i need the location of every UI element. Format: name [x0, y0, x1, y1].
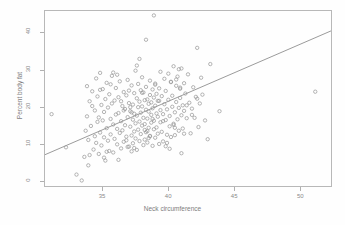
data-point: [197, 125, 200, 128]
data-point: [94, 77, 97, 80]
data-point: [105, 126, 108, 129]
data-point: [93, 135, 96, 138]
data-point: [178, 96, 181, 99]
data-point: [151, 144, 154, 147]
data-point: [190, 107, 193, 110]
data-point: [112, 71, 115, 74]
data-point: [102, 110, 105, 113]
data-point: [165, 141, 168, 144]
data-point: [125, 135, 128, 138]
data-point: [138, 100, 141, 103]
data-point: [104, 97, 107, 100]
data-point: [136, 128, 139, 131]
y-tick-label: 20: [25, 98, 31, 114]
data-point: [175, 78, 178, 81]
data-point: [130, 150, 133, 153]
data-point: [91, 90, 94, 93]
data-point: [101, 119, 104, 122]
data-point: [133, 130, 136, 133]
data-point: [97, 152, 100, 155]
data-point: [115, 127, 118, 130]
data-point: [181, 127, 184, 130]
data-point: [156, 115, 159, 118]
data-point: [163, 77, 166, 80]
data-point: [138, 139, 141, 142]
data-point: [140, 76, 143, 79]
data-point: [135, 64, 138, 67]
y-tick-mark: [40, 32, 44, 33]
data-point: [140, 105, 143, 108]
data-point: [155, 92, 158, 95]
data-point: [157, 142, 160, 145]
data-point: [159, 108, 162, 111]
data-point: [109, 83, 112, 86]
data-point: [171, 105, 174, 108]
data-point: [85, 84, 88, 87]
data-point: [189, 132, 192, 135]
data-point: [91, 104, 94, 107]
y-tick-mark: [40, 70, 44, 71]
data-point: [80, 179, 83, 182]
data-point: [147, 110, 150, 113]
y-tick-label: 30: [25, 61, 31, 77]
data-point: [161, 112, 164, 115]
data-point: [139, 111, 142, 114]
y-tick-label: 0: [25, 172, 31, 188]
data-point: [155, 112, 158, 115]
y-tick-label: 40: [25, 23, 31, 39]
data-point: [218, 110, 221, 113]
data-points-layer: [45, 11, 331, 186]
data-point: [160, 130, 163, 133]
data-point: [180, 114, 183, 117]
x-tick-label: 40: [158, 193, 178, 199]
data-point: [105, 81, 108, 84]
data-point: [314, 90, 317, 93]
data-point: [89, 124, 92, 127]
data-point: [171, 94, 174, 97]
data-point: [98, 71, 101, 74]
data-point: [206, 138, 209, 141]
data-point: [133, 91, 136, 94]
data-point: [96, 95, 99, 98]
data-point: [115, 73, 118, 76]
data-point: [175, 100, 178, 103]
x-tick-mark: [234, 187, 235, 191]
data-point: [167, 98, 170, 101]
data-point: [110, 74, 113, 77]
y-axis-title: Percent body fat: [16, 41, 23, 151]
data-point: [88, 100, 91, 103]
data-point: [113, 137, 116, 140]
data-point: [127, 101, 130, 104]
data-point: [168, 147, 171, 150]
y-tick-mark: [40, 144, 44, 145]
data-point: [94, 141, 97, 144]
data-point: [100, 144, 103, 147]
data-point: [122, 90, 125, 93]
data-point: [131, 118, 134, 121]
data-point: [185, 117, 188, 120]
data-point: [168, 114, 171, 117]
data-point: [84, 129, 87, 132]
x-tick-label: 45: [224, 193, 244, 199]
y-tick-label: 10: [25, 135, 31, 151]
data-point: [138, 120, 141, 123]
data-point: [190, 113, 193, 116]
data-point: [156, 132, 159, 135]
data-point: [142, 116, 145, 119]
data-point: [109, 117, 112, 120]
data-point: [135, 114, 138, 117]
data-point: [163, 103, 166, 106]
data-point: [109, 133, 112, 136]
data-point: [154, 136, 157, 139]
data-point: [126, 78, 129, 81]
data-point: [176, 118, 179, 121]
data-point: [83, 155, 86, 158]
data-point: [114, 86, 117, 89]
data-point: [115, 143, 118, 146]
data-point: [110, 102, 113, 105]
data-point: [148, 93, 151, 96]
scatter-plot-figure: 010203040 35404550 Neck circumference Pe…: [0, 0, 345, 225]
data-point: [182, 109, 185, 112]
data-point: [142, 143, 145, 146]
x-tick-mark: [168, 187, 169, 191]
